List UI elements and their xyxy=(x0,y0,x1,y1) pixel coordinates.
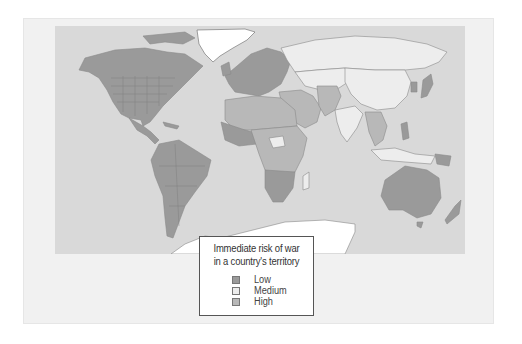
region-caribbean xyxy=(163,122,179,129)
region-new-zealand xyxy=(445,200,461,224)
legend-label-low: Low xyxy=(254,274,271,285)
legend-label-medium: Medium xyxy=(254,285,287,296)
region-europe xyxy=(225,48,291,96)
region-central-africa xyxy=(251,126,307,176)
region-uk xyxy=(221,62,231,76)
legend-item-medium: Medium xyxy=(232,285,313,296)
legend-items: Low Medium High xyxy=(232,274,313,307)
region-south-america xyxy=(151,140,211,238)
legend-title: Immediate risk of war in a country's ter… xyxy=(206,242,308,268)
legend-item-high: High xyxy=(232,296,313,307)
region-korea xyxy=(411,82,417,92)
map-legend: Immediate risk of war in a country's ter… xyxy=(199,236,314,316)
region-russia xyxy=(281,36,447,72)
region-arctic-islands xyxy=(143,32,195,44)
region-india xyxy=(335,106,363,142)
legend-title-line2: in a country's territory xyxy=(206,255,308,268)
region-madagascar xyxy=(303,172,309,190)
region-tasmania xyxy=(417,222,423,228)
region-philippines xyxy=(401,122,409,140)
world-map xyxy=(55,26,465,254)
swatch-high xyxy=(232,298,240,306)
region-greenland xyxy=(197,29,255,62)
region-southeast-asia xyxy=(365,112,387,146)
region-japan xyxy=(421,74,433,98)
legend-title-line1: Immediate risk of war xyxy=(206,242,308,255)
region-indonesia xyxy=(371,148,435,164)
swatch-low xyxy=(232,276,240,284)
region-australia xyxy=(381,166,441,218)
legend-item-low: Low xyxy=(232,274,313,285)
legend-label-high: High xyxy=(254,296,273,307)
region-papua xyxy=(435,154,451,166)
swatch-medium xyxy=(232,287,240,295)
world-map-svg xyxy=(55,26,465,254)
region-north-america xyxy=(79,48,203,126)
region-southern-africa xyxy=(265,170,295,202)
region-china xyxy=(345,68,411,110)
